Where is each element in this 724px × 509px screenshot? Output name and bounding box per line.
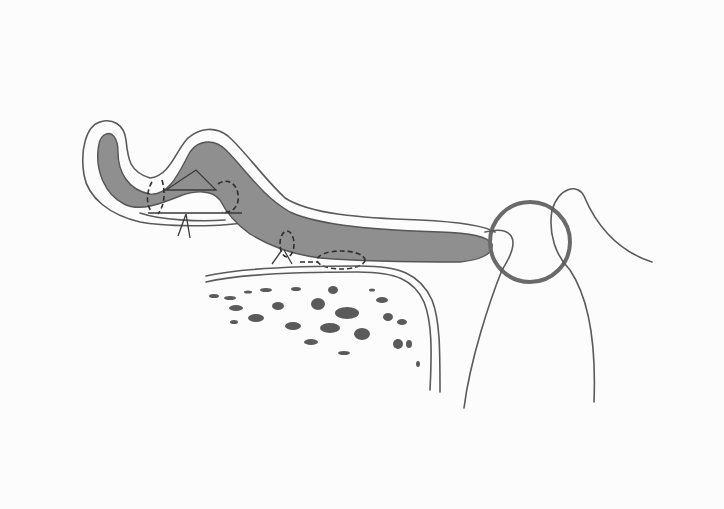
flap-tissue-core: [98, 134, 492, 262]
illustration-canvas: [0, 0, 724, 509]
bone-cancellous-specks: [209, 286, 420, 367]
anatomical-diagram: [0, 0, 724, 509]
loop-lines: [464, 189, 652, 408]
